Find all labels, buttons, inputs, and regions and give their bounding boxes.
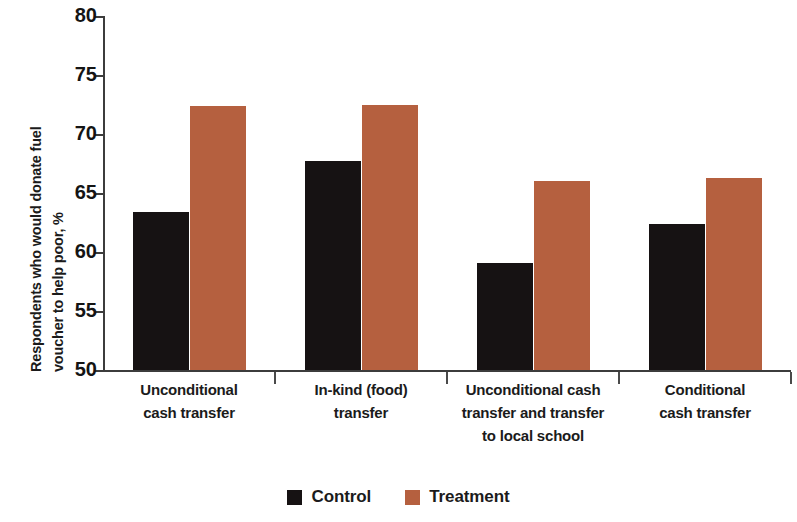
- y-tick-label: 50: [75, 358, 97, 380]
- legend-item-control[interactable]: Control: [287, 487, 371, 507]
- x-axis-label-line: to local school: [447, 424, 619, 447]
- y-axis-title-line-1: Respondents who would donate fuel: [26, 126, 47, 372]
- y-tick-label: 60: [75, 240, 97, 262]
- x-axis-label-line: transfer and transfer: [447, 401, 619, 424]
- y-axis-title-line-2: voucher to help poor, %: [48, 212, 69, 372]
- y-tick-label: 80: [75, 4, 97, 26]
- chart-legend: ControlTreatment: [0, 487, 797, 507]
- bar-chart: Respondents who would donate fuel vouche…: [0, 0, 797, 522]
- bar-control-group-1: [133, 212, 189, 370]
- x-axis-label-line: Unconditional cash: [447, 378, 619, 401]
- plot-area: 80757065605550: [103, 16, 791, 371]
- legend-label: Treatment: [429, 487, 509, 507]
- bar-treatment-group-1: [190, 106, 246, 370]
- legend-swatch-icon: [405, 490, 420, 505]
- x-axis-labels: Unconditionalcash transferIn-kind (food)…: [103, 378, 791, 470]
- bar-control-group-4: [649, 224, 705, 370]
- y-tick-label: 70: [75, 122, 97, 144]
- legend-swatch-icon: [287, 490, 302, 505]
- y-tick-label: 65: [75, 181, 97, 203]
- x-axis-label-line: Unconditional: [103, 378, 275, 401]
- x-axis-label-line: cash transfer: [103, 401, 275, 424]
- bar-control-group-2: [305, 161, 361, 370]
- y-axis-title: Respondents who would donate fuel vouche…: [0, 0, 62, 382]
- x-axis-label-line: In-kind (food): [275, 378, 447, 401]
- bar-treatment-group-3: [534, 181, 590, 370]
- legend-label: Control: [311, 487, 371, 507]
- y-axis-line: [103, 16, 105, 371]
- y-tick-label: 55: [75, 299, 97, 321]
- x-axis-label-group-3: Unconditional cashtransfer and transfert…: [447, 378, 619, 447]
- legend-item-treatment[interactable]: Treatment: [405, 487, 509, 507]
- x-axis-label-group-1: Unconditionalcash transfer: [103, 378, 275, 424]
- x-axis-label-line: cash transfer: [619, 401, 791, 424]
- x-axis-label-group-2: In-kind (food)transfer: [275, 378, 447, 424]
- x-axis-label-line: transfer: [275, 401, 447, 424]
- x-axis-label-group-4: Conditionalcash transfer: [619, 378, 791, 424]
- x-axis-label-line: Conditional: [619, 378, 791, 401]
- bar-control-group-3: [477, 263, 533, 370]
- bar-treatment-group-4: [706, 178, 762, 370]
- y-tick-label: 75: [75, 63, 97, 85]
- bar-treatment-group-2: [362, 105, 418, 371]
